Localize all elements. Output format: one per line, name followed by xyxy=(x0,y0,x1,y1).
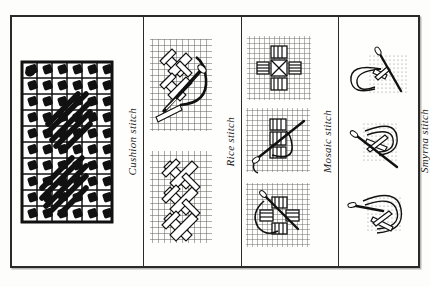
panel-label-rice: Rice stitch xyxy=(219,17,241,266)
panel-row: Cushion stitch xyxy=(12,17,418,266)
rice-completed-row-figure xyxy=(146,143,218,251)
panel-rice: Rice stitch xyxy=(143,17,241,266)
panel-label-cushion: Cushion stitch xyxy=(121,17,143,266)
figure-group-smyrna xyxy=(339,17,413,266)
panel-label-smyrna: Smyrna stitch xyxy=(413,17,430,266)
figure-group-mosaic xyxy=(242,17,316,266)
smyrna-needle-step-two-figure xyxy=(339,107,413,175)
panel-mosaic: Mosaic stitch xyxy=(241,17,338,266)
smyrna-needle-step-three-figure xyxy=(339,177,413,245)
mosaic-motif-figure xyxy=(244,33,314,103)
panel-cushion: Cushion stitch xyxy=(12,17,143,266)
label-text-smyrna: Smyrna stitch xyxy=(418,109,430,173)
mosaic-needle-step-one-figure xyxy=(242,105,316,177)
panel-smyrna: Smyrna stitch xyxy=(338,17,430,266)
rice-needle-figure xyxy=(146,33,218,141)
cushion-sampler-figure xyxy=(16,56,118,228)
label-text-mosaic: Mosaic stitch xyxy=(321,110,333,173)
panel-label-mosaic: Mosaic stitch xyxy=(316,17,338,266)
label-text-rice: Rice stitch xyxy=(224,117,236,166)
label-text-cushion: Cushion stitch xyxy=(126,108,138,175)
figure-group-cushion xyxy=(12,17,121,266)
stitch-diagram-plate: Cushion stitch xyxy=(10,15,420,268)
figure-group-rice xyxy=(144,17,219,266)
mosaic-needle-step-two-figure xyxy=(242,179,316,251)
smyrna-needle-step-one-figure xyxy=(341,39,411,105)
